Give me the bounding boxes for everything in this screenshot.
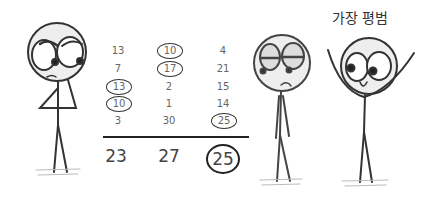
col2-value: 30 (157, 115, 181, 127)
col1-value: 7 (106, 63, 130, 75)
col3-value: 14 (211, 98, 235, 110)
comic-panel: 가장 평범 13 7 13 10 3 10 17 2 1 30 4 21 15 … (0, 0, 435, 202)
unimpressed-figure (254, 35, 310, 185)
happy-figure (328, 38, 414, 186)
col1-total: 23 (98, 146, 134, 166)
col3-value: 15 (211, 81, 235, 93)
col2-value-circled: 10 (157, 43, 183, 59)
col2-value-circled: 17 (157, 61, 183, 77)
col1-value-circled: 13 (106, 79, 132, 95)
col2-total: 27 (151, 146, 187, 166)
col2-value: 1 (157, 98, 181, 110)
col3-total-circled: 25 (206, 144, 240, 174)
thinking-figure (28, 23, 86, 175)
col3-value: 4 (211, 45, 235, 57)
col1-value: 13 (106, 45, 130, 57)
col3-value: 21 (211, 63, 235, 75)
caption-most-ordinary: 가장 평범 (332, 7, 388, 27)
sum-divider-line (103, 136, 249, 138)
col1-value: 3 (106, 115, 130, 127)
col1-value-circled: 10 (106, 96, 132, 112)
col2-value: 2 (157, 81, 181, 93)
col3-value-circled: 25 (211, 113, 237, 129)
